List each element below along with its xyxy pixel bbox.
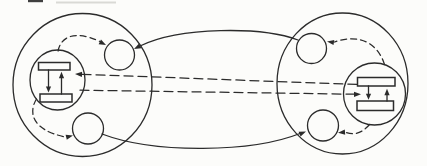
left-bottom-process-circle: [73, 113, 104, 144]
arrowhead-channel-to-left-kernel: [75, 72, 82, 77]
arrowhead-channel-to-right-kernel: [354, 92, 361, 97]
scan-artifact-light: [56, 2, 116, 4]
right-top-process-circle: [297, 34, 327, 64]
left-kernel-top-bar: [39, 63, 71, 71]
arrowhead-right-kernel-to-bottom-process: [338, 130, 345, 135]
left-top-process-circle: [105, 40, 135, 70]
left-host-circle: [13, 14, 152, 157]
channel-dash-bottom: [80, 90, 354, 94]
left-top-dashed-arc: [58, 36, 100, 51]
scan-artifact-dark: [28, 0, 43, 2]
right-top-dashed-arc: [335, 39, 385, 65]
arrowhead-left-kernel-to-bottom-process: [66, 135, 73, 140]
arrowhead-right-kernel-up: [384, 89, 389, 96]
channel-dash-top: [82, 74, 358, 84]
figure: [0, 0, 427, 166]
right-bottom-process-circle: [308, 110, 339, 141]
arrowhead-right-kernel-to-top-process: [327, 40, 334, 45]
arrowhead-left-kernel-up: [59, 72, 64, 79]
right-kernel-bottom-bar: [357, 101, 394, 111]
left-bottom-dashed-arc: [33, 99, 66, 137]
right-kernel-top-bar: [358, 78, 396, 87]
arrowhead-bottom-arc-to-right-bottom-process: [299, 132, 306, 137]
arrowhead-left-kernel-down: [46, 87, 51, 93]
left-kernel-bottom-bar: [40, 94, 72, 102]
arrowhead-right-kernel-down: [366, 94, 371, 100]
right-bottom-dashed-arc: [346, 125, 370, 134]
figure-svg: [0, 0, 427, 166]
arrowhead-left-kernel-to-top-process: [99, 40, 106, 45]
intercluster-top-arc: [140, 31, 298, 46]
